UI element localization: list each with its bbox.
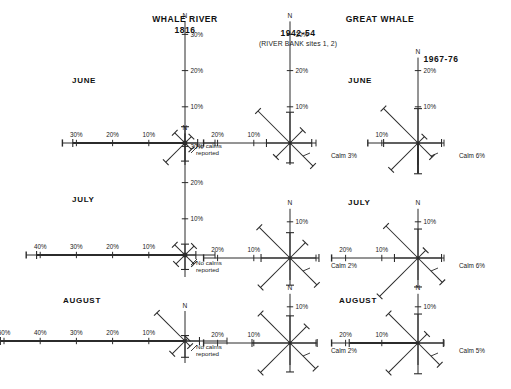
month-label-august-left: AUGUST — [63, 296, 101, 305]
calm-note-august-mid: Calm 2% — [331, 347, 357, 354]
rose-tick-label-horizontal: 20% — [106, 329, 119, 336]
compass-north-label: N — [416, 199, 421, 206]
rose-tick-label-horizontal: 20% — [211, 131, 224, 138]
no-calms-note-july-left: No calms reported — [196, 259, 222, 274]
great-whale-midperiod-note: (RIVER BANK sites 1, 2) — [238, 40, 358, 47]
rose-tick-label-horizontal: 10% — [247, 246, 260, 253]
rose-ray-NW — [261, 314, 290, 343]
no-calms-line-1: No calms — [196, 259, 222, 266]
month-label-june-right: JUNE — [348, 76, 372, 85]
rose-ray-NW — [258, 111, 290, 143]
rose-tick-label-horizontal: 10% — [375, 331, 388, 338]
rose-tick-label-horizontal: 10% — [142, 131, 155, 138]
wind-rose-june-col2: N10%20%10% — [368, 48, 444, 174]
rose-tick-label-horizontal: 40% — [34, 329, 47, 336]
calm-leader-line — [431, 353, 438, 356]
rose-ray-SE — [290, 343, 316, 369]
rose-tick-label-horizontal: 20% — [106, 131, 119, 138]
rose-tick-label-vertical: 20% — [424, 67, 437, 74]
calm-note-july-mid: Calm 2% — [331, 262, 357, 269]
rose-tick-label-horizontal: 10% — [142, 243, 155, 250]
great-whale-farperiod-years: 1967-76 — [386, 54, 496, 64]
rose-tick-label-horizontal: 20% — [339, 246, 352, 253]
compass-north-label: N — [183, 124, 188, 131]
no-calms-note-august-left: No calms reported — [196, 343, 222, 358]
rose-ray-SW — [276, 143, 290, 157]
rose-tick-label-horizontal: 10% — [142, 329, 155, 336]
rose-centre-hub — [289, 142, 292, 145]
wind-rose-figure: N10%20%30%10%20%30%N10%20%30%10%20%30%40… — [0, 0, 511, 389]
rose-ray-NW — [157, 313, 185, 341]
rose-ray-SW — [172, 341, 185, 354]
rose-tick-label-horizontal: 50% — [0, 329, 11, 336]
rose-tick-label-horizontal: 10% — [375, 131, 388, 138]
wind-rose-august-col0: N10%20%30%40%50% — [0, 302, 227, 364]
whale-river-years: 1816 — [125, 25, 245, 35]
rose-tick-label-vertical: 10% — [191, 215, 204, 222]
rose-ray-SE — [418, 258, 442, 282]
rose-tick-label-vertical: 10% — [191, 103, 204, 110]
rose-ray-SE — [290, 258, 317, 285]
rose-tick-label-horizontal: 10% — [247, 131, 260, 138]
compass-north-label: N — [288, 284, 293, 291]
rose-centre-hub — [184, 340, 187, 343]
rose-tick-label-vertical: 10% — [424, 103, 437, 110]
rose-ray-NW — [389, 314, 418, 343]
calm-note-july-far: Calm 6% — [459, 262, 485, 269]
calm-note-june-far: Calm 6% — [459, 152, 485, 159]
wind-rose-august-col1: N10%10%20% — [204, 284, 319, 375]
no-calms-line-1: No calms — [196, 142, 222, 149]
compass-north-label: N — [288, 12, 293, 19]
rose-tick-label-horizontal: 40% — [34, 243, 47, 250]
rose-ray-SW — [166, 143, 185, 162]
rose-ray-NW — [383, 108, 418, 143]
rose-tick-label-vertical: 10% — [424, 303, 437, 310]
calm-note-june-mid: Calm 3% — [331, 152, 357, 159]
rose-tick-label-horizontal: 20% — [211, 331, 224, 338]
rose-tick-label-vertical: 10% — [424, 218, 437, 225]
rose-ray-NW — [259, 227, 290, 258]
rose-ray-SE — [418, 143, 432, 157]
rose-centre-hub — [417, 142, 420, 145]
rose-tick-label-horizontal: 10% — [247, 331, 260, 338]
no-calms-line-2: reported — [196, 149, 222, 156]
rose-tick-label-vertical: 10% — [296, 103, 309, 110]
no-calms-line-2: reported — [196, 266, 222, 273]
rose-ray-SW — [380, 258, 418, 296]
no-calms-note-june-left: No calms reported — [196, 142, 222, 157]
rose-tick-label-horizontal: 20% — [106, 243, 119, 250]
great-whale-midperiod-years: 1942-54 — [243, 28, 353, 38]
rose-centre-hub — [417, 342, 420, 345]
rose-ray-NE — [290, 243, 305, 258]
rose-ray-SW — [391, 143, 418, 170]
rose-tick-label-horizontal: 20% — [211, 246, 224, 253]
rose-tick-label-vertical: 10% — [296, 303, 309, 310]
rose-ray-NE — [290, 326, 307, 343]
rose-tick-label-horizontal: 20% — [339, 331, 352, 338]
calm-note-august-far: Calm 5% — [459, 347, 485, 354]
compass-north-label: N — [288, 199, 293, 206]
calm-leader-line — [431, 153, 438, 156]
month-label-june-left: JUNE — [72, 76, 96, 85]
month-label-july-left: JULY — [72, 195, 95, 204]
no-calms-line-2: reported — [196, 350, 222, 357]
calm-leader-line — [303, 353, 310, 356]
rose-ray-SW — [261, 258, 290, 287]
calm-leader-line — [431, 268, 438, 271]
compass-north-label: N — [416, 284, 421, 291]
wind-rose-july-col0: N10%20%30%10%20%30%40% — [26, 124, 215, 277]
rose-ray-SW — [389, 343, 418, 372]
wind-rose-july-col2: N10%10%20% — [332, 199, 446, 299]
rose-tick-label-horizontal: 10% — [375, 246, 388, 253]
wind-rose-july-col1: N10%10%20% — [204, 199, 320, 290]
rose-centre-hub — [289, 342, 292, 345]
month-label-august-right: AUGUST — [339, 296, 377, 305]
rose-tick-label-vertical: 20% — [191, 179, 204, 186]
no-calms-line-1: No calms — [196, 343, 222, 350]
great-whale-title: GREAT WHALE — [300, 14, 460, 24]
calm-leader-line — [303, 153, 310, 156]
compass-north-label: N — [183, 302, 188, 309]
rose-tick-label-horizontal: 30% — [70, 329, 83, 336]
whale-river-title: WHALE RIVER — [125, 14, 245, 24]
rose-tick-label-vertical: 20% — [296, 67, 309, 74]
